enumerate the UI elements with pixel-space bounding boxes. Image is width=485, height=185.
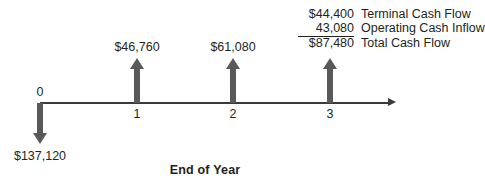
cash-flow-value-year-2: $61,080 — [210, 41, 255, 54]
arrow-shaft — [134, 67, 140, 103]
tick-label-year-1: 1 — [124, 108, 150, 121]
arrow-shaft — [230, 67, 236, 103]
breakdown-caption: Total Cash Flow — [354, 37, 450, 51]
cash-flow-arrow-year-2 — [227, 58, 239, 103]
timeline-axis-arrowhead-icon — [388, 98, 396, 106]
tick-label-year-0: 0 — [27, 86, 53, 99]
breakdown-amount: 43,080 — [298, 22, 354, 37]
tick-label-year-2: 2 — [220, 108, 246, 121]
breakdown-amount: $87,480 — [298, 37, 354, 51]
cash-flow-value-year-1: $46,760 — [114, 41, 159, 54]
timeline-axis — [40, 102, 390, 104]
tick-label-year-3: 3 — [317, 108, 343, 121]
cash-flow-arrow-year-0 — [34, 103, 46, 144]
breakdown-caption: Operating Cash Inflow — [354, 22, 485, 36]
arrow-shaft — [327, 67, 333, 103]
cash-flow-value-year-0: $137,120 — [14, 150, 66, 163]
arrow-shaft — [37, 103, 43, 135]
cash-flow-arrow-year-1 — [131, 58, 143, 103]
cash-flow-arrow-year-3 — [324, 58, 336, 103]
breakdown-row-operating-cash-inflow: 43,080 Operating Cash Inflow — [298, 22, 485, 37]
breakdown-row-terminal-cash-flow: $44,400 Terminal Cash Flow — [298, 8, 485, 22]
axis-caption: End of Year — [0, 163, 410, 177]
arrow-down-head-icon — [33, 133, 47, 144]
year-3-cash-flow-breakdown: $44,400 Terminal Cash Flow 43,080 Operat… — [298, 8, 485, 50]
cash-flow-timeline-diagram: 0 $137,120 $46,760 1 $61,080 2 3 $44,400… — [0, 0, 485, 185]
breakdown-caption: Terminal Cash Flow — [354, 8, 471, 22]
breakdown-row-total-cash-flow: $87,480 Total Cash Flow — [298, 37, 485, 51]
breakdown-amount: $44,400 — [298, 8, 354, 22]
